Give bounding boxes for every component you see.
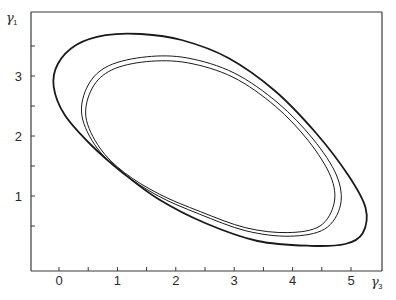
y-axis-title-sub: 1 — [13, 18, 18, 27]
plot-frame — [31, 12, 382, 271]
orbit-curves — [53, 34, 366, 246]
y-tick-label: 2 — [15, 129, 22, 144]
phase-portrait-chart: 012345 123 γ 1 γ 3 — [0, 0, 396, 300]
x-axis-title-sub: 3 — [378, 282, 383, 291]
inner-orbit-curve — [81, 56, 341, 236]
x-axis-title: γ 3 — [371, 274, 383, 291]
y-axis-title: γ 1 — [6, 10, 18, 27]
x-axis-ticks: 012345 — [55, 267, 354, 288]
inner-orbit-curve — [86, 61, 335, 233]
x-tick-label: 2 — [172, 273, 179, 288]
x-tick-label: 1 — [114, 273, 121, 288]
y-tick-label: 1 — [15, 189, 22, 204]
x-tick-label: 3 — [231, 273, 238, 288]
outer-orbit-curve — [53, 34, 366, 246]
x-tick-label: 4 — [289, 273, 296, 288]
y-tick-label: 3 — [15, 69, 22, 84]
x-tick-label: 5 — [347, 273, 354, 288]
x-tick-label: 0 — [55, 273, 62, 288]
y-axis-ticks: 123 — [15, 46, 35, 226]
